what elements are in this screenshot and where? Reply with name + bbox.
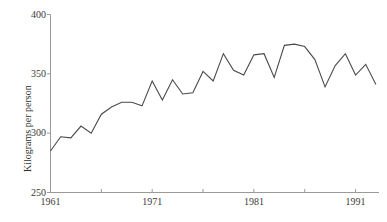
- x-tick-label: 1991: [336, 196, 376, 207]
- chart-axes: [51, 15, 380, 193]
- y-tick-label: 350: [18, 68, 46, 79]
- line-chart-plot: [0, 0, 387, 222]
- x-tick-label: 1971: [132, 196, 172, 207]
- y-axis-ticks: [47, 15, 51, 193]
- chart-container: 250300350400 1961197119811991 Kilograms …: [0, 0, 387, 222]
- x-tick-label: 1981: [234, 196, 274, 207]
- x-tick-label: 1961: [31, 196, 71, 207]
- y-axis-title: Kilograms per person: [22, 85, 33, 172]
- data-series-line: [51, 44, 376, 151]
- x-axis-ticks: [51, 189, 356, 193]
- y-tick-label: 400: [18, 9, 46, 20]
